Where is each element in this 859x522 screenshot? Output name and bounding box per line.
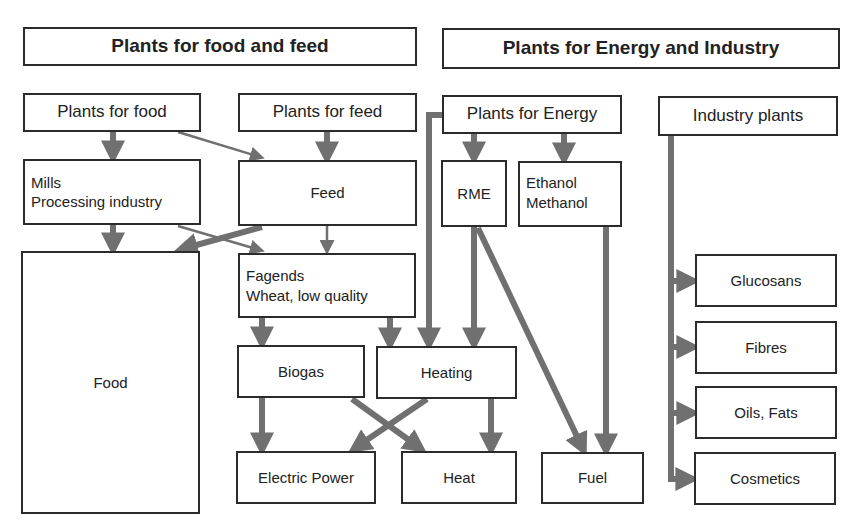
node-electric-power: Electric Power bbox=[236, 451, 376, 504]
node-food: Food bbox=[21, 251, 200, 514]
node-label: Feed bbox=[310, 183, 344, 203]
header-energy-industry: Plants for Energy and Industry bbox=[442, 28, 840, 69]
arrow-feed-to-food bbox=[182, 227, 262, 249]
node-label: Cosmetics bbox=[730, 469, 800, 489]
arrow-rme-to-fuel bbox=[478, 228, 583, 449]
node-mills-processing: Mills Processing industry bbox=[23, 159, 201, 225]
node-label: Oils, Fats bbox=[734, 403, 797, 423]
node-label: Food bbox=[93, 373, 127, 393]
node-label: Heating bbox=[421, 363, 473, 383]
node-plants-for-food: Plants for food bbox=[23, 93, 201, 132]
node-plants-for-feed: Plants for feed bbox=[238, 93, 417, 132]
node-label: Heat bbox=[443, 468, 475, 488]
node-oils-fats: Oils, Fats bbox=[695, 386, 837, 439]
arrow-heating-to-electric bbox=[355, 399, 427, 448]
node-label: Fibres bbox=[745, 338, 787, 358]
node-label: Plants for food bbox=[57, 101, 167, 123]
node-feed: Feed bbox=[238, 160, 417, 226]
header-energy-industry-label: Plants for Energy and Industry bbox=[503, 36, 780, 61]
node-label: Industry plants bbox=[693, 105, 804, 127]
node-plants-for-energy: Plants for Energy bbox=[442, 95, 622, 134]
node-heating: Heating bbox=[376, 346, 517, 399]
node-label: Plants for feed bbox=[273, 101, 383, 123]
arrow-food-to-feed bbox=[178, 132, 260, 157]
node-fibres: Fibres bbox=[695, 321, 837, 374]
node-label: Glucosans bbox=[731, 271, 802, 291]
node-label: Fuel bbox=[578, 468, 607, 488]
node-cosmetics: Cosmetics bbox=[694, 452, 836, 505]
node-label: Plants for Energy bbox=[467, 103, 597, 125]
node-rme: RME bbox=[441, 160, 507, 227]
node-fagends: Fagends Wheat, low quality bbox=[238, 253, 416, 318]
node-biogas: Biogas bbox=[237, 345, 365, 398]
node-label: Electric Power bbox=[258, 468, 354, 488]
node-label: Biogas bbox=[278, 362, 324, 382]
node-fuel: Fuel bbox=[541, 452, 644, 504]
node-label: Fagends Wheat, low quality bbox=[246, 266, 368, 305]
node-heat: Heat bbox=[401, 451, 517, 504]
arrow-mills-to-fagends bbox=[178, 226, 260, 250]
header-food-feed-label: Plants for food and feed bbox=[111, 34, 328, 59]
node-label: Ethanol Methanol bbox=[526, 173, 588, 212]
header-food-feed: Plants for food and feed bbox=[23, 27, 417, 66]
node-label: RME bbox=[457, 184, 490, 204]
node-label: Mills Processing industry bbox=[31, 173, 162, 212]
node-industry-plants: Industry plants bbox=[658, 96, 838, 136]
node-glucosans: Glucosans bbox=[695, 254, 837, 307]
node-ethanol-methanol: Ethanol Methanol bbox=[518, 161, 622, 227]
arrow-biogas-to-heat bbox=[352, 399, 420, 448]
arrow-energy-to-heating bbox=[429, 115, 442, 343]
